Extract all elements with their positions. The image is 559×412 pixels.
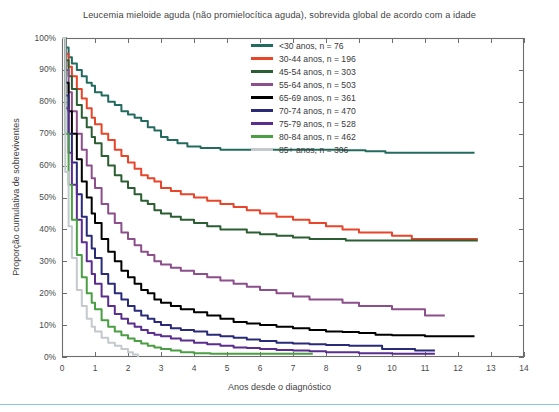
legend-item-label: 65-69 anos, n = 361: [279, 93, 356, 103]
y-tick-label: 70%: [22, 128, 56, 138]
x-tick-label: 2: [116, 363, 140, 373]
x-tick-label: 14: [512, 363, 536, 373]
y-tick-label: 40%: [22, 224, 56, 234]
chart-title: Leucemia mieloide aguda (não promielocít…: [0, 10, 559, 20]
series-line-5: [62, 38, 435, 351]
legend-swatch-icon: [251, 83, 273, 86]
y-tick-label: 20%: [22, 288, 56, 298]
y-tick-label: 100%: [22, 33, 56, 43]
legend-item-label: 70-74 anos, n = 470: [279, 106, 356, 116]
bottom-divider: [0, 404, 559, 405]
x-tick-label: 0: [50, 363, 74, 373]
legend-swatch-icon: [251, 96, 273, 99]
legend-swatch-icon: [251, 122, 273, 125]
legend-item[interactable]: 85+ anos, n = 306: [251, 144, 356, 156]
y-tick-label: 80%: [22, 96, 56, 106]
y-axis-title: Proporção cumulativa de sobreviventes: [11, 97, 21, 297]
legend-item[interactable]: 30-44 anos, n = 196: [251, 53, 356, 65]
x-tick-label: 1: [83, 363, 107, 373]
x-tick-label: 8: [314, 363, 338, 373]
y-tick-label: 90%: [22, 64, 56, 74]
x-tick-label: 3: [149, 363, 173, 373]
x-tick-label: 9: [347, 363, 371, 373]
y-tick-label: 60%: [22, 160, 56, 170]
legend-item-label: <30 anos, n = 76: [279, 41, 344, 51]
survival-chart: Leucemia mieloide aguda (não promielocít…: [0, 0, 559, 412]
x-tick-label: 5: [215, 363, 239, 373]
legend-item[interactable]: 75-79 anos, n = 528: [251, 118, 356, 130]
x-tick-label: 6: [248, 363, 272, 373]
legend-item[interactable]: 80-84 anos, n = 462: [251, 131, 356, 143]
legend-item-label: 75-79 anos, n = 528: [279, 119, 356, 129]
legend-swatch-icon: [251, 44, 273, 47]
legend-item[interactable]: 45-54 anos, n = 303: [251, 66, 356, 78]
legend-item[interactable]: 70-74 anos, n = 470: [251, 105, 356, 117]
legend-item-label: 30-44 anos, n = 196: [279, 54, 356, 64]
x-tick-label: 4: [182, 363, 206, 373]
legend-swatch-icon: [251, 148, 273, 151]
x-tick-label: 13: [479, 363, 503, 373]
legend-item-label: 45-54 anos, n = 303: [279, 67, 356, 77]
y-tick-label: 0%: [22, 352, 56, 362]
legend: <30 anos, n = 7630-44 anos, n = 19645-54…: [251, 40, 356, 155]
legend-swatch-icon: [251, 109, 273, 112]
legend-item-label: 80-84 anos, n = 462: [279, 132, 356, 142]
legend-swatch-icon: [251, 70, 273, 73]
x-tick-label: 12: [446, 363, 470, 373]
x-tick-label: 10: [380, 363, 404, 373]
x-axis-title: Anos desde o diagnóstico: [0, 382, 559, 392]
legend-item[interactable]: 55-64 anos, n = 503: [251, 79, 356, 91]
y-tick-label: 30%: [22, 256, 56, 266]
y-tick-label: 50%: [22, 192, 56, 202]
y-tick-label: 10%: [22, 320, 56, 330]
legend-item[interactable]: 65-69 anos, n = 361: [251, 92, 356, 104]
legend-swatch-icon: [251, 135, 273, 138]
legend-item-label: 55-64 anos, n = 503: [279, 80, 356, 90]
x-tick-label: 11: [413, 363, 437, 373]
legend-item[interactable]: <30 anos, n = 76: [251, 40, 356, 52]
legend-swatch-icon: [251, 57, 273, 60]
x-tick-label: 7: [281, 363, 305, 373]
legend-item-label: 85+ anos, n = 306: [279, 145, 348, 155]
